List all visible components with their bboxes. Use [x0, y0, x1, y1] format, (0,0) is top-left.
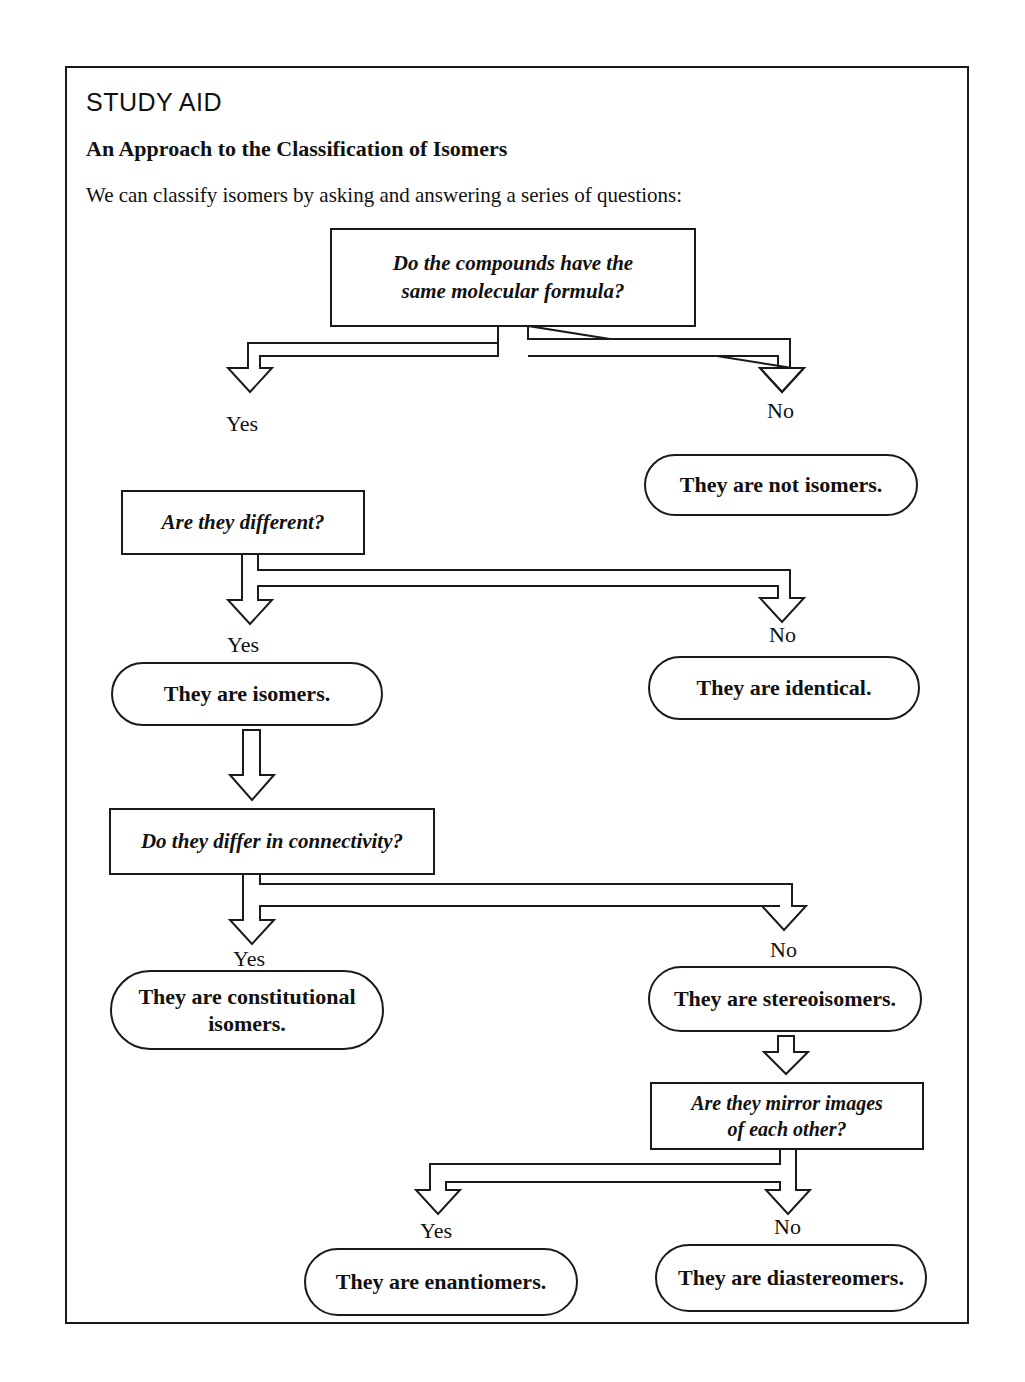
outcome-isomers: They are isomers. [111, 662, 383, 726]
answer-no-label: No [774, 1214, 801, 1240]
question-text: Do the compounds have the [393, 250, 633, 277]
answer-no-label: No [769, 622, 796, 648]
arrow-q4-split [416, 1148, 810, 1214]
question-connectivity: Do they differ in connectivity? [109, 808, 435, 875]
outcome-text: isomers. [138, 1010, 355, 1038]
outcome-identical: They are identical. [648, 656, 920, 720]
arrow-isomers-to-q3 [230, 730, 274, 800]
outcome-text: They are constitutional [138, 983, 355, 1011]
arrow-q1-yes [228, 326, 498, 392]
answer-yes-label: Yes [226, 411, 258, 437]
outcome-stereoisomers: They are stereoisomers. [648, 966, 922, 1032]
arrow-q1-no [528, 326, 804, 392]
arrow-q3-yes [230, 874, 806, 944]
answer-yes-label: Yes [233, 946, 265, 972]
answer-no-label: No [767, 398, 794, 424]
arrow-q2-yes [228, 554, 804, 624]
question-text: of each other? [691, 1116, 883, 1142]
outcome-enantiomers: They are enantiomers. [304, 1248, 578, 1316]
question-text: same molecular formula? [393, 278, 633, 305]
outcome-not-isomers: They are not isomers. [644, 454, 918, 516]
outcome-diastereomers: They are diastereomers. [655, 1244, 927, 1312]
answer-yes-label: Yes [227, 632, 259, 658]
question-same-formula: Do the compounds have the same molecular… [330, 228, 696, 327]
outcome-constitutional-isomers: They are constitutional isomers. [110, 970, 384, 1050]
answer-no-label: No [770, 937, 797, 963]
answer-yes-label: Yes [420, 1218, 452, 1244]
question-mirror-images: Are they mirror images of each other? [650, 1082, 924, 1150]
question-text: Are they mirror images [691, 1090, 883, 1116]
question-different: Are they different? [121, 490, 365, 555]
arrow-stereo-to-q4 [764, 1036, 808, 1074]
